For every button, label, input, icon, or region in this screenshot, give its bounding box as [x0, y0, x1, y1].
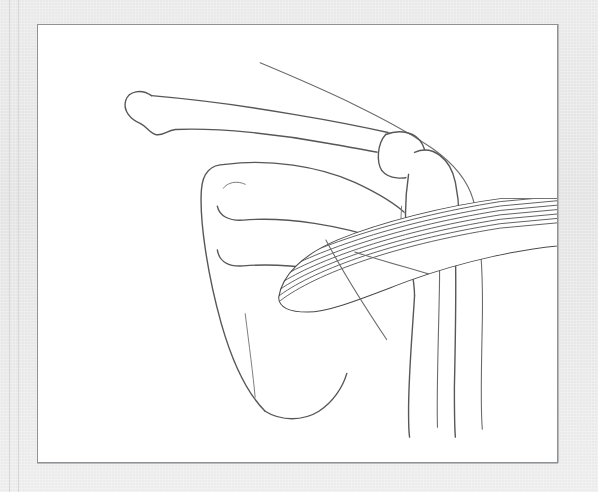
mat-seam-left-outer	[9, 0, 10, 492]
humerus	[404, 150, 458, 437]
mat-seam-left-inner	[18, 0, 19, 492]
figure-frame	[0, 0, 598, 492]
artwork-plate	[37, 24, 558, 463]
shoulder-anatomy-drawing	[38, 25, 557, 462]
clavicle	[125, 92, 393, 155]
